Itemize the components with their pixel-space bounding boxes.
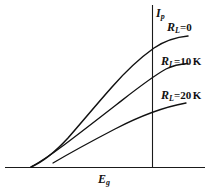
curve-label-rl-10k-symbol: R bbox=[161, 54, 169, 68]
curve-label-rl-20k: RL=20K bbox=[161, 86, 201, 103]
curve-label-rl-10k-unit: K bbox=[193, 55, 202, 67]
x-axis-label: Eg bbox=[98, 170, 110, 187]
curve-label-rl-10k: RL=10K bbox=[161, 52, 201, 69]
curve-label-rl-20k-value: =20 bbox=[174, 89, 191, 101]
x-axis-label-symbol: E bbox=[98, 172, 106, 186]
photocurrent-characteristic-figure: Ip Eg RL=0 RL=10K RL=20K bbox=[0, 0, 211, 190]
x-axis-label-subscript: g bbox=[106, 178, 110, 187]
curve-label-rl-20k-unit: K bbox=[193, 89, 202, 101]
curve-label-rl-20k-symbol: R bbox=[161, 88, 169, 102]
y-axis-label-subscript: p bbox=[161, 12, 165, 21]
curve-label-rl-10k-value: =10 bbox=[174, 55, 191, 67]
curve-label-rl-0: RL=0 bbox=[167, 18, 192, 35]
curve-rl-10k bbox=[31, 64, 188, 168]
curve-label-rl-0-value: =0 bbox=[180, 21, 192, 33]
y-axis-label: Ip bbox=[156, 4, 165, 21]
curve-label-rl-0-symbol: R bbox=[167, 20, 175, 34]
